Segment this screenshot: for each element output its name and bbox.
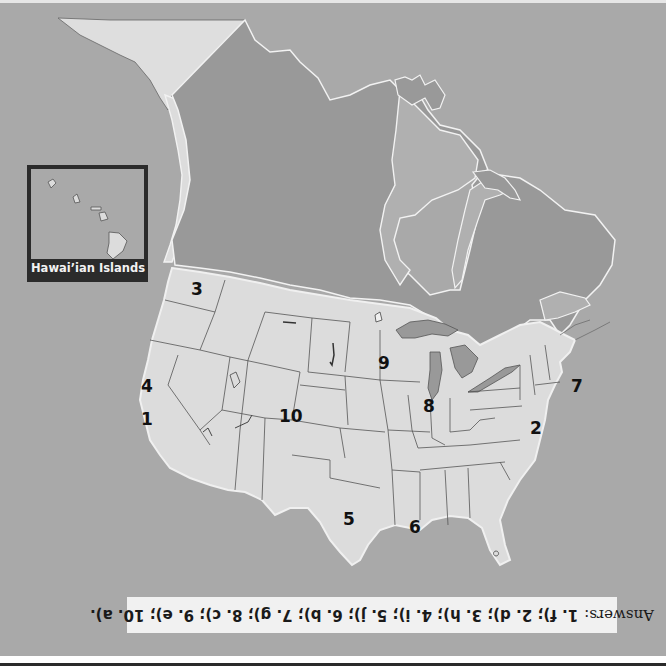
- marker-3: 3: [191, 281, 203, 298]
- marker-7: 7: [571, 378, 583, 395]
- marker-1: 1: [141, 411, 153, 428]
- marker-5: 5: [343, 511, 355, 528]
- big-island: [107, 232, 127, 259]
- answers-strip: Answers: 1. f); 2. d); 3. h); 4. i); 5. …: [127, 597, 617, 633]
- maui-island: [99, 212, 108, 221]
- marker-9: 9: [378, 355, 390, 372]
- marker-4: 4: [141, 378, 153, 395]
- marker-6: 6: [409, 519, 421, 536]
- hawaii-inset-label: Hawai’ian Islands: [31, 259, 144, 278]
- fort-peck-lake: [283, 322, 296, 323]
- north-america-map: [0, 0, 666, 656]
- hawaii-inset: Hawai’ian Islands: [27, 165, 148, 282]
- answers-text-rotated: Answers: 1. f); 2. d); 3. h); 4. i); 5. …: [127, 597, 617, 633]
- answers-lead: Answers:: [584, 606, 654, 624]
- map-canvas: Hawai’ian Islands 3 4 1 10 9 8 2 7 5 6 A…: [0, 0, 666, 656]
- molokai-island: [91, 207, 101, 210]
- bottom-rule: [0, 663, 666, 666]
- kauai-island: [48, 179, 56, 188]
- oahu-island: [73, 194, 80, 203]
- marker-8: 8: [423, 398, 435, 415]
- answers-key: 1. f); 2. d); 3. h); 4. i); 5. j); 6. b)…: [90, 606, 578, 624]
- marker-10: 10: [279, 408, 303, 425]
- marker-2: 2: [530, 420, 542, 437]
